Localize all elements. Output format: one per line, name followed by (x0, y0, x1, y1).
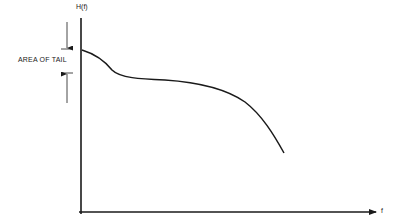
area-of-tail-label: AREA OF TAIL (18, 56, 67, 63)
y-axis-label: H(f) (76, 3, 88, 10)
response-curve (82, 50, 284, 153)
x-axis-label: f (381, 207, 383, 214)
spectrum-diagram (0, 0, 400, 223)
